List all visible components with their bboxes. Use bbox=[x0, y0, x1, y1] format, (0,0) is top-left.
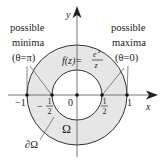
svg-text:1: 1 bbox=[48, 97, 52, 106]
tick-label-minus-one: −1 bbox=[15, 97, 26, 108]
svg-text:e: e bbox=[93, 50, 97, 59]
svg-text:−: − bbox=[37, 101, 43, 112]
boundary-label: ∂Ω bbox=[25, 139, 38, 150]
svg-text:2: 2 bbox=[48, 107, 52, 116]
svg-text:possible: possible bbox=[10, 22, 45, 33]
region-omega-label: Ω bbox=[62, 122, 71, 136]
svg-text:1: 1 bbox=[103, 97, 107, 106]
svg-text:possible: possible bbox=[111, 22, 146, 33]
annotation-possible-minima: possible minima (θ=π) bbox=[10, 22, 45, 64]
svg-text:minima: minima bbox=[12, 37, 44, 48]
x-axis-label: x bbox=[145, 101, 151, 112]
svg-text:(θ=π): (θ=π) bbox=[12, 52, 36, 64]
point-origin bbox=[75, 93, 79, 97]
svg-text:(θ=0): (θ=0) bbox=[115, 52, 139, 64]
tick-label-plus-one: 1 bbox=[127, 97, 132, 108]
maxima-pointer-line-outer bbox=[127, 66, 128, 94]
annulus-diagram: y x −1 − 1 2 0 1 2 1 f(z)= e z z Ω ∂Ω po… bbox=[0, 0, 161, 160]
svg-text:2: 2 bbox=[103, 107, 107, 116]
annotation-possible-maxima: possible maxima (θ=0) bbox=[111, 22, 146, 64]
y-axis-label: y bbox=[65, 9, 71, 20]
tick-label-zero: 0 bbox=[68, 97, 73, 108]
svg-text:f(z)=: f(z)= bbox=[62, 55, 82, 67]
svg-text:maxima: maxima bbox=[112, 37, 146, 48]
